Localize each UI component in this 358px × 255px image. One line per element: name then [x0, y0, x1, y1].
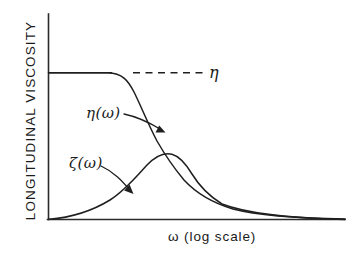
y-axis-label: LONGITUDINAL VISCOSITY: [23, 18, 38, 223]
eta-omega-curve: [49, 73, 346, 219]
eta-omega-curve-label: η(ω): [86, 104, 121, 122]
zeta-omega-curve-label: ζ(ω): [69, 154, 103, 172]
eta-omega-arrowhead: [156, 125, 166, 132]
eta-omega-leader-line: [124, 114, 160, 129]
x-axis-label: ω (log scale): [168, 229, 256, 244]
zeta-omega-leader-line: [101, 166, 129, 189]
plot-drawing: [0, 0, 358, 255]
eta-asymptote-label: η: [209, 63, 219, 82]
figure-canvas: LONGITUDINAL VISCOSITY ω (log scale) η η…: [0, 0, 358, 255]
